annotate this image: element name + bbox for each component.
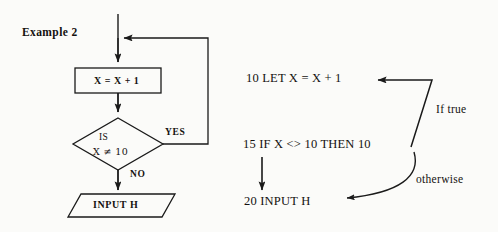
annotation-otherwise: otherwise xyxy=(416,174,463,186)
process-box-label: X = X + 1 xyxy=(94,76,139,86)
io-box-label: INPUT H xyxy=(93,200,138,210)
figure-canvas: Example 2 X = X + 1 IS X ≠ 10 YES NO INP… xyxy=(0,0,498,232)
decision-label-line2: X ≠ 10 xyxy=(93,147,128,157)
code-line-10: 10 LET X = X + 1 xyxy=(246,72,342,85)
decision-label-line1: IS xyxy=(99,133,108,143)
annotation-if-true: If true xyxy=(436,104,467,116)
flow-decision-diamond xyxy=(73,118,163,170)
code-line-20: 20 INPUT H xyxy=(244,195,310,208)
code-arrow-otherwise xyxy=(347,152,415,198)
code-line-15: 15 IF X <> 10 THEN 10 xyxy=(243,138,371,151)
code-arrow-if-true xyxy=(378,80,432,147)
branch-label-no: NO xyxy=(130,170,146,180)
figure-caption: Example 2 xyxy=(22,27,78,39)
branch-label-yes: YES xyxy=(165,128,186,138)
